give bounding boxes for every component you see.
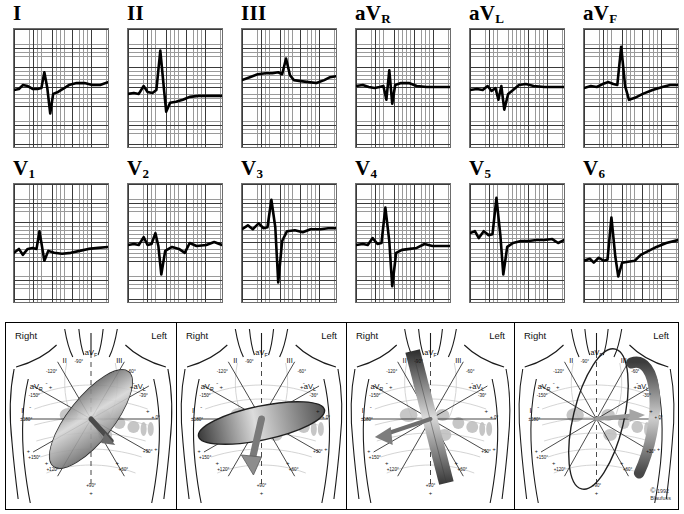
ecg-lead-v5: V5 — [464, 155, 564, 310]
hexaxial-angle-iii-pos: +60° — [289, 467, 299, 472]
hexaxial-angle-avr-neg: -150° — [537, 393, 548, 398]
hexaxial-angle-avr-neg: -150° — [29, 393, 40, 398]
lead-label-avl: aVL — [469, 0, 504, 28]
torso-left-label: Left — [489, 330, 505, 341]
hexaxial-sign-plus: + — [286, 460, 290, 466]
hexaxial-angle-avf-pos: +90° — [86, 483, 96, 488]
ecg-trace-v2 — [128, 184, 222, 302]
hexaxial-sign-minus: - — [553, 380, 555, 386]
hexaxial-sign-plus: + — [469, 384, 473, 390]
lead-label-avr: aVR — [355, 0, 391, 28]
ecg-strip-v2 — [127, 183, 223, 303]
torso-left-label: Left — [653, 330, 669, 341]
hexaxial-sign-plus: + — [219, 384, 223, 390]
lead-label-base: aV — [355, 1, 381, 25]
hexaxial-label-iii: III — [455, 356, 461, 365]
ecg-row-limb-leads: IIIIIIaVRaVLaVF — [0, 0, 684, 155]
hexaxial-label-iii: III — [621, 356, 627, 365]
hexaxial-sign-plus: + — [657, 446, 660, 452]
torso-right-label: Right — [356, 330, 378, 341]
lead-label-subscript: 6 — [598, 166, 605, 181]
ecg-strip-v1 — [13, 183, 109, 303]
copyright-notice: © 1992 Blaufuss — [650, 488, 671, 501]
hexaxial-angle-ii-neg: -120° — [553, 369, 564, 374]
ecg-strip-avl — [469, 28, 565, 148]
ecg-strip-v6 — [583, 183, 679, 303]
ecg-lead-avr: aVR — [350, 0, 450, 155]
hexaxial-sign-minus: - — [386, 380, 388, 386]
torso-right-label: Right — [524, 330, 546, 341]
hexaxial-angle-avf-pos: +90° — [426, 483, 436, 488]
lead-label-subscript: 3 — [256, 166, 263, 181]
hexaxial-angle-iii-neg: -60° — [466, 369, 475, 374]
ecg-trace-v3 — [242, 184, 336, 302]
ecg-strip-i — [13, 28, 109, 148]
lead-label-base: aV — [469, 1, 495, 25]
hexaxial-angle-avf-pos: +90° — [592, 483, 602, 488]
hexaxial-sign-plus: + — [493, 446, 496, 452]
hexaxial-sign-minus: - — [200, 404, 202, 410]
hexaxial-label-i: I — [362, 406, 364, 415]
hexaxial-angle-avr-neg: -150° — [200, 393, 211, 398]
ecg-trace-v1 — [14, 184, 108, 302]
hexaxial-angle-ii-neg: -120° — [386, 369, 397, 374]
hexaxial-label-avl: aVL — [304, 382, 316, 392]
hexaxial-label-avf: aVF — [255, 348, 267, 358]
hexaxial-angle-avl-neg: -30° — [643, 393, 651, 398]
torso-right-label: Right — [186, 330, 208, 341]
lead-label-base: II — [127, 1, 144, 25]
hexaxial-angle-i-neg: ±180° — [20, 417, 32, 422]
lead-label-ii: II — [127, 0, 144, 28]
hexaxial-angle-avl-pos: +30° — [313, 449, 323, 454]
hexaxial-sign-plus: + — [116, 460, 120, 466]
hexaxial-label-avf: aVF — [85, 348, 97, 358]
lead-label-subscript: R — [381, 11, 391, 26]
hexaxial-label-avr: aVR — [30, 382, 43, 392]
lead-label-base: V — [583, 156, 598, 180]
ecg-strip-v3 — [241, 183, 337, 303]
hexaxial-label-avr: aVR — [201, 382, 214, 392]
ecg-trace-v4 — [356, 184, 450, 302]
hexaxial-label-ii: II — [63, 356, 67, 365]
hexaxial-angle-avf-neg: -90° — [581, 359, 589, 364]
ecg-lead-v1: V1 — [8, 155, 108, 310]
copyright-icon: © — [650, 487, 655, 494]
hexaxial-angle-ii-pos: +120° — [46, 467, 58, 472]
ecg-trace-avr — [356, 29, 450, 147]
hexaxial-label-ii: II — [569, 356, 573, 365]
ecg-row-precordial-leads: V1V2V3V4V5V6 — [0, 155, 684, 310]
lead-label-subscript: 2 — [142, 166, 149, 181]
hexaxial-angle-avr-pos: +150° — [369, 455, 381, 460]
hexaxial-sign-plus: + — [634, 384, 638, 390]
hexaxial-label-i: I — [21, 406, 23, 415]
hexaxial-angle-avl-pos: +30° — [143, 449, 153, 454]
ecg-lead-v3: V3 — [236, 155, 336, 310]
hexaxial-angle-avl-pos: +30° — [481, 449, 491, 454]
hexaxial-sign-minus: - — [29, 404, 31, 410]
ecg-lead-v6: V6 — [578, 155, 678, 310]
hexaxial-sign-plus: + — [130, 384, 134, 390]
hexaxial-sign-minus: - — [45, 380, 47, 386]
hexaxial-angle-avf-pos: +90° — [257, 483, 267, 488]
lead-label-v6: V6 — [583, 155, 605, 183]
hexaxial-angle-iii-neg: -60° — [631, 369, 639, 374]
hexaxial-angle-avr-pos: +150° — [199, 455, 211, 460]
hexaxial-sign-minus: - — [370, 404, 372, 410]
hexaxial-sign-plus: + — [389, 384, 393, 390]
ecg-strip-v5 — [469, 183, 565, 303]
hexaxial-sign-plus: + — [552, 460, 556, 466]
torso-left-label: Left — [151, 330, 167, 341]
lead-label-avf: aVF — [583, 0, 618, 28]
hexaxial-angle-ii-pos: +120° — [217, 467, 229, 472]
lead-label-base: V — [13, 156, 28, 180]
ecg-strip-v4 — [355, 183, 451, 303]
ecg-trace-i — [14, 29, 108, 147]
ecg-lead-iii: III — [236, 0, 336, 155]
ecg-strip-avf — [583, 28, 679, 148]
lead-label-base: III — [241, 1, 266, 25]
lead-label-base: V — [469, 156, 484, 180]
hexaxial-label-iii: III — [287, 356, 293, 365]
hexaxial-sign-plus: + — [556, 384, 560, 390]
lead-label-subscript: F — [609, 11, 617, 26]
hexaxial-sign-plus: + — [535, 448, 538, 454]
